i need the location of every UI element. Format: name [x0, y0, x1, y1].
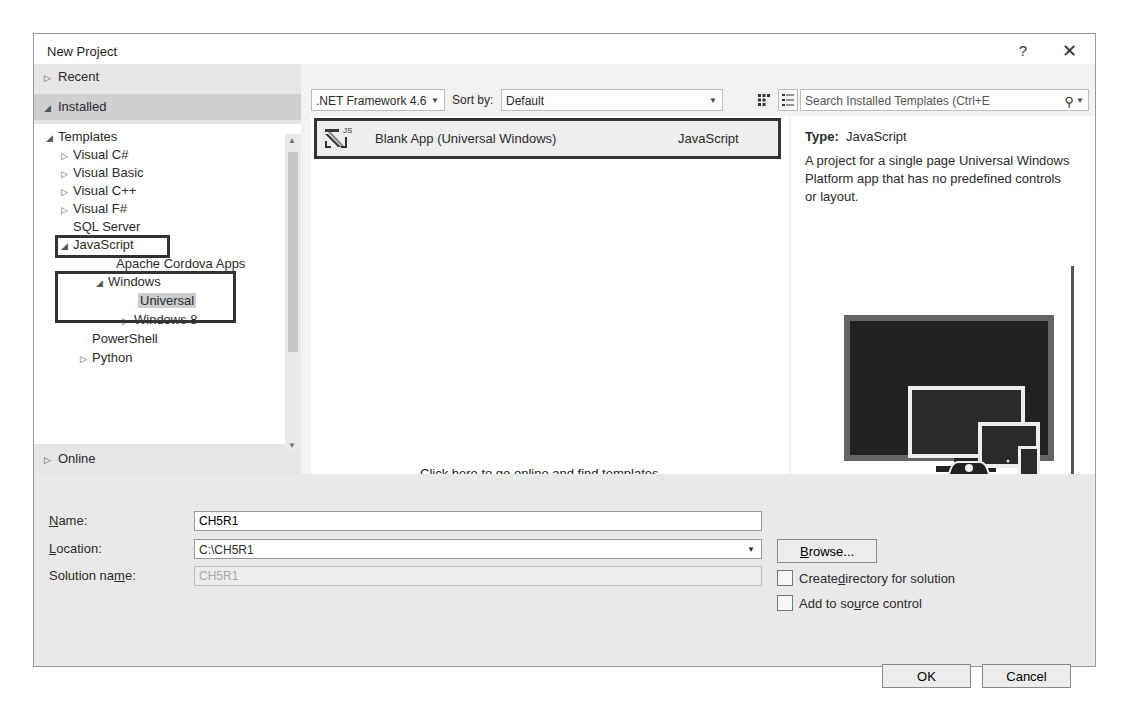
- tree-item-label: PowerShell: [92, 331, 158, 346]
- location-combobox[interactable]: C:\CH5R1▼: [194, 539, 762, 559]
- help-button[interactable]: ?: [1019, 42, 1027, 59]
- tree-item-label: Visual F#: [73, 201, 127, 216]
- expand-arrow-icon: ▷: [44, 447, 58, 473]
- tree-item-visual-cpp[interactable]: ▷Visual C++: [61, 183, 136, 198]
- tree-item-label: Python: [92, 350, 132, 365]
- dialog-title: New Project: [47, 44, 117, 59]
- sort-by-label: Sort by:: [452, 93, 493, 107]
- solution-name-label: Solution name:: [49, 568, 136, 583]
- tree-item-label: Visual C#: [73, 147, 128, 162]
- name-label: Name:: [49, 513, 87, 528]
- collapse-arrow-icon: ◢: [96, 278, 108, 288]
- tree-item-label: SQL Server: [73, 219, 140, 234]
- collapse-arrow-icon: ◢: [61, 241, 73, 251]
- javascript-project-icon: JS: [323, 125, 353, 151]
- tree-item-label: Windows: [108, 274, 161, 289]
- nav-installed-label: Installed: [58, 99, 106, 114]
- grid-view-icon: [757, 93, 771, 107]
- label-text: ocation:: [56, 541, 102, 556]
- template-name: Blank App (Universal Windows): [375, 131, 556, 146]
- nav-installed[interactable]: ◢Installed: [34, 94, 301, 120]
- template-language: JavaScript: [678, 131, 739, 146]
- chevron-down-icon: ▼: [709, 90, 717, 112]
- tree-item-label: JavaScript: [73, 237, 134, 252]
- expand-arrow-icon: ▷: [61, 205, 73, 215]
- new-project-dialog: New Project ? ✕ ▷Recent ◢Installed ◢Temp…: [33, 33, 1096, 667]
- small-icons-view-button[interactable]: [754, 89, 774, 111]
- label-text: irectory for solution: [845, 571, 955, 586]
- location-label: Location:: [49, 541, 102, 556]
- nav-recent[interactable]: ▷Recent: [34, 64, 301, 90]
- list-view-icon: [781, 93, 795, 107]
- tree-item-label: Windows 8: [134, 312, 198, 327]
- ok-button[interactable]: OK: [882, 664, 971, 688]
- tree-item-label: Visual Basic: [73, 165, 144, 180]
- button-label: rowse...: [809, 544, 855, 559]
- tree-item-powershell[interactable]: PowerShell: [92, 331, 158, 346]
- label-text: Solution na: [49, 568, 114, 583]
- chevron-down-icon: ▼: [431, 90, 439, 112]
- expand-arrow-icon: ▷: [61, 151, 73, 161]
- create-directory-checkbox[interactable]: Create directory for solution: [777, 570, 955, 586]
- chevron-down-icon[interactable]: ▼: [747, 540, 755, 560]
- scrollbar-thumb[interactable]: [288, 152, 298, 352]
- add-source-control-checkbox[interactable]: Add to source control: [777, 595, 922, 611]
- location-value: C:\CH5R1: [199, 543, 254, 557]
- list-view-button[interactable]: [778, 89, 798, 111]
- checkbox-unchecked-icon[interactable]: [777, 570, 793, 586]
- expand-arrow-icon: ▷: [61, 169, 73, 179]
- tree-item-templates[interactable]: ◢Templates: [46, 129, 117, 144]
- access-key: m: [114, 568, 125, 583]
- tree-item-javascript[interactable]: ◢JavaScript: [61, 237, 134, 252]
- title-bar: New Project ? ✕: [34, 34, 1095, 64]
- tree-item-windows[interactable]: ◢Windows: [96, 274, 161, 289]
- close-button[interactable]: ✕: [1062, 40, 1077, 62]
- templates-tree: ◢Templates ▷Visual C# ▷Visual Basic ▷Vis…: [34, 124, 301, 444]
- devices-illustration-icon: [824, 266, 1071, 500]
- cancel-button[interactable]: Cancel: [982, 664, 1071, 688]
- tree-item-python[interactable]: ▷Python: [80, 350, 132, 365]
- tree-item-visual-csharp[interactable]: ▷Visual C#: [61, 147, 128, 162]
- framework-select[interactable]: .NET Framework 4.6▼: [311, 89, 445, 111]
- tree-item-visual-fsharp[interactable]: ▷Visual F#: [61, 201, 127, 216]
- solution-name-input: [194, 566, 762, 586]
- search-placeholder: Search Installed Templates (Ctrl+E: [805, 94, 990, 108]
- tree-item-universal[interactable]: Universal: [138, 293, 196, 308]
- nav-online[interactable]: ▷Online: [34, 446, 301, 472]
- tree-item-label: Universal: [138, 293, 196, 308]
- expand-arrow-icon: ▷: [61, 187, 73, 197]
- tree-item-label: Templates: [58, 129, 117, 144]
- sort-by-select[interactable]: Default▼: [501, 89, 723, 111]
- expand-arrow-icon: ▷: [122, 316, 134, 326]
- access-key: u: [854, 596, 861, 611]
- project-name-input[interactable]: [194, 511, 762, 531]
- collapse-arrow-icon: ◢: [46, 133, 58, 143]
- checkbox-unchecked-icon[interactable]: [777, 595, 793, 611]
- svg-text:JS: JS: [343, 126, 352, 135]
- type-label: Type:: [805, 129, 839, 144]
- access-key: B: [800, 544, 809, 559]
- label-text: ame:: [58, 513, 87, 528]
- search-icon[interactable]: ⚲: [1064, 91, 1074, 113]
- tree-scrollbar[interactable]: ▲ ▼: [285, 134, 301, 452]
- label-text: rce control: [861, 596, 922, 611]
- tree-item-sql-server[interactable]: SQL Server: [73, 219, 140, 234]
- sort-value: Default: [506, 94, 544, 108]
- collapse-arrow-icon: ◢: [44, 95, 58, 121]
- type-value: JavaScript: [846, 129, 907, 144]
- chevron-down-icon[interactable]: ▼: [1076, 90, 1084, 112]
- search-templates-input[interactable]: Search Installed Templates (Ctrl+E⚲▼: [800, 89, 1089, 111]
- tree-item-visual-basic[interactable]: ▷Visual Basic: [61, 165, 144, 180]
- template-item-blank-app[interactable]: JS Blank App (Universal Windows) JavaScr…: [314, 118, 781, 159]
- expand-arrow-icon: ▷: [44, 65, 58, 91]
- browse-button[interactable]: Browse...: [777, 539, 877, 563]
- label-text: Create: [799, 571, 838, 586]
- templates-list-pane: [311, 116, 789, 496]
- tree-item-label: Visual C++: [73, 183, 136, 198]
- tree-item-apache-cordova[interactable]: Apache Cordova Apps: [116, 256, 245, 271]
- scroll-up-arrow-icon[interactable]: ▲: [288, 136, 296, 145]
- universal-devices-preview: [824, 266, 1074, 503]
- tree-item-windows-8[interactable]: ▷Windows 8: [122, 312, 198, 327]
- nav-online-label: Online: [58, 451, 96, 466]
- label-text: Add to so: [799, 596, 854, 611]
